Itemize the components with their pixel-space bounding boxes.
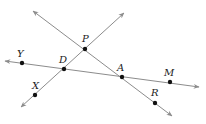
point-x [33, 93, 37, 97]
point-d [62, 67, 66, 71]
label-x: X [31, 80, 40, 91]
label-d: D [58, 54, 67, 65]
point-m [168, 80, 172, 84]
point-y [20, 61, 24, 65]
label-m: M [163, 67, 175, 78]
geometry-diagram: PDAYMXR [0, 0, 206, 124]
label-a: A [116, 62, 124, 73]
label-r: R [150, 87, 159, 98]
points-group [20, 47, 172, 105]
line-PA [33, 11, 172, 116]
point-p [83, 47, 87, 51]
point-r [153, 101, 157, 105]
line-XP [21, 13, 124, 107]
point-a [120, 75, 124, 79]
lines-group [5, 11, 199, 116]
label-p: P [81, 33, 89, 44]
label-y: Y [17, 48, 25, 59]
